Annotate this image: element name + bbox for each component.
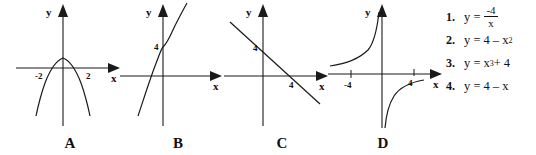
equation-number-3: 3.	[446, 52, 464, 75]
x-axis-label: x	[111, 72, 117, 84]
x-tick-4: 4	[289, 80, 294, 90]
equation-body-3: y = x3 + 4	[464, 52, 510, 75]
graph-line-svg: y x 4 4	[222, 0, 342, 135]
y-axis-label: y	[46, 6, 52, 18]
graph-hyperbola-svg: y x -4 4	[326, 0, 456, 135]
x-tick-4: 4	[408, 78, 413, 88]
graph-panel-a: y x -2 2 A	[10, 0, 130, 155]
fraction-1: -4 x	[484, 5, 497, 29]
equation-lhs-1: y =	[464, 6, 480, 29]
graph-panel-b: y x 4 B	[118, 0, 238, 155]
equation-number-4: 4.	[446, 75, 464, 98]
y-axis-arrow	[158, 4, 168, 17]
equation-item-1: 1. y = -4 x	[446, 6, 536, 29]
y-axis-arrow	[258, 4, 268, 17]
y-axis-label: y	[146, 6, 152, 18]
equation-lhs-3: y =	[464, 52, 480, 75]
x-tick-neg2: -2	[35, 71, 43, 81]
graph-cubic-svg: y x 4	[118, 0, 238, 135]
fraction-denominator-1: x	[488, 17, 494, 29]
equation-lhs-2: y =	[464, 29, 480, 52]
equation-number-2: 2.	[446, 29, 464, 52]
equation-item-4: 4. y = 4 – x	[446, 75, 536, 98]
y-tick-4: 4	[253, 43, 258, 53]
equation-item-2: 2. y = 4 – x2	[446, 29, 536, 52]
equation-rhs-4: 4 – x	[483, 75, 508, 98]
x-axis-label: x	[433, 78, 439, 90]
x-axis-label: x	[213, 80, 219, 92]
equation-list: 1. y = -4 x 2. y = 4 – x2 3. y = x3 + 4	[446, 6, 536, 106]
linear-curve	[230, 22, 320, 104]
y-tick-4: 4	[154, 42, 159, 52]
math-worksheet: y x -2 2 A y x 4 B	[0, 0, 536, 155]
y-axis-label: y	[365, 6, 371, 18]
graph-label-b: B	[118, 135, 238, 152]
x-tick-neg4: -4	[344, 80, 352, 90]
graph-panel-d: y x -4 4 D	[326, 0, 456, 155]
graph-parabola-svg: y x -2 2	[10, 0, 130, 135]
equation-rhs-base-3: x	[483, 52, 489, 75]
x-axis-label: x	[319, 80, 325, 92]
equation-lhs-4: y =	[464, 75, 480, 98]
graph-panel-c: y x 4 4 C	[222, 0, 342, 155]
equation-body-4: y = 4 – x	[464, 75, 508, 98]
y-axis-label: y	[246, 6, 252, 18]
graph-label-a: A	[10, 135, 130, 152]
equation-rhs-2: 4 – x	[483, 29, 508, 52]
equation-item-3: 3. y = x3 + 4	[446, 52, 536, 75]
x-tick-2: 2	[86, 71, 91, 81]
equation-body-1: y = -4 x	[464, 6, 498, 29]
fraction-numerator-1: -4	[484, 5, 497, 17]
equation-number-1: 1.	[446, 6, 464, 29]
graph-label-d: D	[318, 135, 448, 152]
hyperbola-branch-lower-right	[385, 80, 424, 128]
hyperbola-branch-upper-left	[330, 12, 379, 66]
equation-rhs-tail-3: + 4	[494, 52, 510, 75]
y-axis-arrow	[58, 4, 68, 17]
equation-body-2: y = 4 – x2	[464, 29, 512, 52]
